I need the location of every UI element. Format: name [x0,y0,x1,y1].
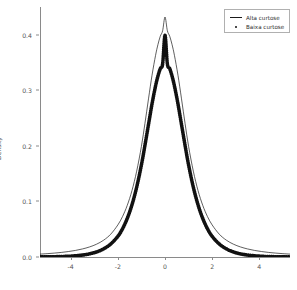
y-tick-label: 0.4 [22,31,32,38]
y-tick-label: 0.2 [22,142,32,149]
legend-item-baixa-curtose: Baixa curtose [228,22,286,31]
y-tick-label: 0.0 [22,254,32,261]
dot-glyph-icon [228,22,244,31]
y-tick-label: 0.3 [22,87,32,94]
x-tick-label: -4 [68,263,74,270]
x-tick-label: 0 [163,263,167,270]
y-tick-mark [36,201,39,202]
y-tick-label: 0.1 [22,198,32,205]
y-tick-mark [36,145,39,146]
y-axis-ticks: 0.00.10.20.30.4 [0,0,38,290]
plot-area [40,7,290,257]
density-plot-figure: Density 0.00.10.20.30.4 -4-2024 Alta cur… [0,0,297,290]
legend-label-alta-curtose: Alta curtose [244,15,280,21]
x-tick-label: -2 [115,263,121,270]
curve-baixa-curtose [40,35,290,257]
line-glyph-icon [228,13,244,22]
x-tick-mark [118,257,119,260]
x-tick-mark [212,257,213,260]
x-tick-mark [71,257,72,260]
x-tick-mark [165,257,166,260]
legend-item-alta-curtose: Alta curtose [228,13,286,22]
x-tick-label: 4 [257,263,261,270]
legend-label-baixa-curtose: Baixa curtose [244,24,284,30]
y-tick-mark [36,257,39,258]
x-tick-label: 2 [210,263,214,270]
x-tick-mark [259,257,260,260]
density-curves [40,7,290,257]
y-tick-mark [36,90,39,91]
chart-legend: Alta curtose Baixa curtose [224,9,290,33]
y-tick-mark [36,34,39,35]
